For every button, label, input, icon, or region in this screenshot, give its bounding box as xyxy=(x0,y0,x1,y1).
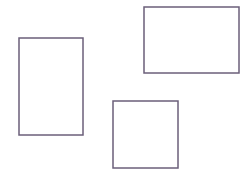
drawing-canvas xyxy=(0,0,250,180)
shapes-svg xyxy=(0,0,250,180)
rectangle-left xyxy=(19,38,83,135)
square-bottom-center xyxy=(113,101,178,168)
rectangle-top-right xyxy=(144,7,239,73)
